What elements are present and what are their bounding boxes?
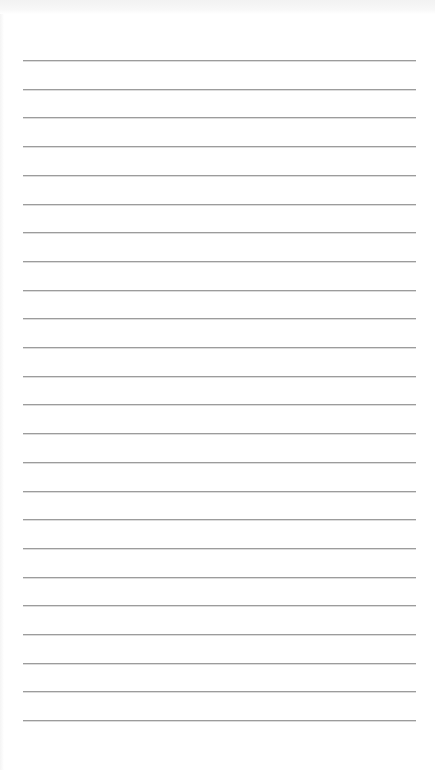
ruled-line: [23, 663, 416, 664]
ruled-line: [23, 204, 416, 205]
ruled-line: [23, 433, 416, 434]
ruled-line: [23, 117, 416, 118]
ruled-line: [23, 404, 416, 405]
ruled-line: [23, 720, 416, 721]
ruled-line: [23, 290, 416, 291]
ruled-line: [23, 261, 416, 262]
ruled-line: [23, 491, 416, 492]
ruled-line: [23, 146, 416, 147]
ruled-line: [23, 548, 416, 549]
ruled-line: [23, 519, 416, 520]
ruled-line: [23, 462, 416, 463]
ruled-line: [23, 347, 416, 348]
ruled-line: [23, 232, 416, 233]
notepad-page[interactable]: [0, 0, 435, 770]
ruled-line: [23, 691, 416, 692]
ruled-line: [23, 175, 416, 176]
ruled-line: [23, 318, 416, 319]
ruled-line: [23, 634, 416, 635]
ruled-line: [23, 577, 416, 578]
ruled-line: [23, 605, 416, 606]
ruled-line: [23, 60, 416, 61]
ruled-line: [23, 376, 416, 377]
ruled-line: [23, 89, 416, 90]
